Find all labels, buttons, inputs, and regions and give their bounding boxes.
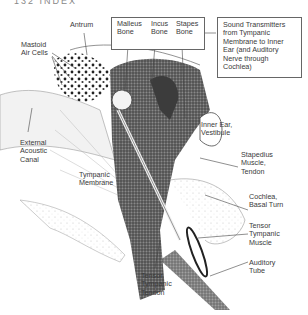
label-stapedius-muscle-tendon: Stapedius Muscle, Tendon bbox=[241, 151, 273, 176]
label-antrum: Antrum bbox=[70, 21, 93, 29]
label-incus-bone: Incus Bone bbox=[151, 20, 168, 37]
label-tensor-tympanic-tendon: Tensor Tympanic Tendon bbox=[141, 272, 172, 297]
label-cochlea-basal-turn: Cochlea, Basal Turn bbox=[249, 193, 283, 210]
malleus-head bbox=[112, 90, 132, 110]
label-auditory-tube: Auditory Tube bbox=[249, 259, 275, 276]
label-tympanic-membrane: Tympanic Membrane bbox=[79, 171, 113, 188]
label-external-acoustic-canal: External Acoustic Canal bbox=[20, 139, 47, 164]
label-malleus-bone: Malleus Bone bbox=[117, 20, 142, 37]
label-sound-transmitters-note: Sound Transmitters from Tympanic Membran… bbox=[223, 21, 285, 71]
external-canal-region bbox=[0, 90, 115, 160]
label-inner-ear-vestibule: Inner Ear, Vestibule bbox=[201, 121, 232, 138]
label-tensor-tympanic-muscle: Tensor Tympanic Muscle bbox=[249, 222, 280, 247]
label-stapes-bone: Stapes Bone bbox=[176, 20, 198, 37]
label-mastoid-air-cells: Mastoid Air Cells bbox=[21, 41, 48, 58]
